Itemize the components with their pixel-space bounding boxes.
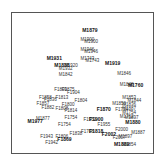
point-label: M1897 bbox=[119, 133, 133, 138]
point-label: M1946 bbox=[84, 49, 98, 54]
point-label: F1814 bbox=[64, 108, 77, 113]
point-label: M1846 bbox=[117, 70, 131, 75]
point-label: M1842 bbox=[59, 71, 73, 76]
point-label: F1904 bbox=[67, 89, 80, 94]
point-label: F1754 bbox=[64, 114, 77, 119]
point-label: M1880 bbox=[125, 119, 140, 124]
point-label: M1760 bbox=[128, 83, 143, 88]
point-label: M1879 bbox=[82, 27, 97, 32]
point-label: M1854 bbox=[122, 142, 136, 147]
point-label: F1813 bbox=[56, 94, 69, 99]
point-label: M1900 bbox=[84, 39, 98, 44]
point-label: M1743 bbox=[85, 58, 99, 63]
point-label: M1932 bbox=[59, 65, 73, 70]
point-label: F1869 bbox=[57, 137, 71, 142]
point-label: M1887 bbox=[131, 129, 145, 134]
scatter-plot-area: M1879M1900M1900M1946M1946M1743M1743M1931… bbox=[11, 12, 154, 154]
point-label: F1882 bbox=[42, 104, 55, 109]
point-label: F1838 bbox=[69, 131, 82, 136]
point-label: M1931 bbox=[47, 55, 62, 60]
point-label: F1943 bbox=[40, 133, 53, 138]
point-label: F2000 bbox=[115, 127, 128, 132]
point-label: F1942 bbox=[45, 139, 58, 144]
point-label: F1804 bbox=[75, 98, 88, 103]
point-label: M1877 bbox=[36, 116, 50, 121]
point-label: F1870 bbox=[97, 107, 111, 112]
point-label: M1919 bbox=[105, 60, 120, 65]
point-label: F1955 bbox=[97, 122, 110, 127]
point-label: F1754 bbox=[58, 122, 71, 127]
